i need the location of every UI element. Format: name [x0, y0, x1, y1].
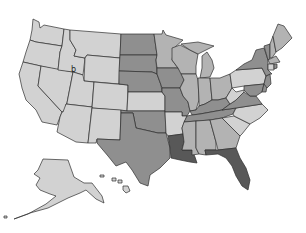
state-WY [84, 55, 120, 84]
state-MT [70, 30, 121, 58]
us-choropleth-map [0, 0, 306, 233]
state-ND [120, 34, 157, 55]
state-KS [127, 92, 165, 111]
state-HI-island-3 [118, 180, 122, 183]
state-RI [274, 64, 277, 69]
state-HI-island-1 [100, 175, 104, 177]
state-CO [92, 82, 128, 111]
state-HI [123, 186, 130, 193]
state-ME [273, 24, 292, 52]
state-CT [268, 64, 274, 70]
map-annotation-b: b [71, 66, 76, 74]
state-FL [205, 148, 250, 190]
alaska-aleutian-dot [4, 216, 7, 218]
state-AK [14, 159, 104, 219]
state-HI-island-2 [112, 178, 116, 181]
state-NM [88, 108, 121, 143]
